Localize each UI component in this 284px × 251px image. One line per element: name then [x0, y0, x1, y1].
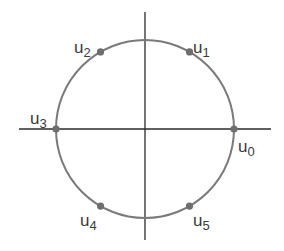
root-label-u2: u2 — [74, 38, 91, 60]
root-label-u4: u4 — [80, 211, 97, 233]
root-label-u5: u5 — [193, 211, 210, 233]
root-point-u5 — [186, 203, 193, 210]
root-label-u3: u3 — [30, 109, 47, 131]
root-labels: u0u1u2u3u4u5 — [30, 38, 255, 233]
root-label-u1: u1 — [193, 38, 210, 60]
root-point-u3 — [52, 125, 59, 132]
unit-circle-diagram: u0u1u2u3u4u5 — [0, 0, 284, 251]
root-point-u4 — [97, 203, 104, 210]
root-label-u0: u0 — [238, 137, 255, 159]
root-point-u2 — [97, 48, 104, 55]
root-point-u0 — [230, 125, 237, 132]
